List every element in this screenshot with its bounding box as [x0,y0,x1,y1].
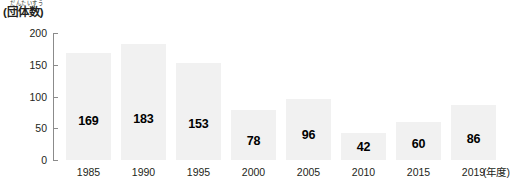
y-axis-tick-label: 50 [1,123,47,134]
x-axis-tick-label: 2000 [231,167,276,178]
y-axis-tick-label: 100 [1,92,47,103]
y-axis-tick [54,65,58,66]
bar: 183 [121,44,166,160]
y-axis-tick-label: 150 [1,60,47,71]
y-axis-tick [54,97,58,98]
y-axis-tick [54,160,58,161]
bar-value-label: 60 [396,138,441,151]
bar-value-label: 96 [286,129,331,142]
bar: 42 [341,133,386,160]
x-axis-label: (年度) [483,167,510,178]
x-axis-tick-label: 2010 [341,167,386,178]
y-axis-tick [54,128,58,129]
y-axis-label: (団体数) [3,7,73,19]
x-axis-tick-label: 1995 [176,167,221,178]
y-axis-tick-label: 0 [1,155,47,166]
bar: 169 [66,53,111,160]
bar-value-label: 169 [66,115,111,128]
bar: 86 [451,105,496,160]
x-axis-tick-label: 2005 [286,167,331,178]
bar: 96 [286,99,331,160]
bar: 60 [396,122,441,160]
y-axis-tick-labels: 050100150200 [1,33,47,161]
plot-area: 050100150200 1691831537896426086 [53,33,508,160]
bar-chart: だんたいすう (団体数) 050100150200 16918315378964… [0,0,525,194]
x-axis-tick-label: 1990 [121,167,166,178]
y-axis-caption: だんたいすう (団体数) [3,1,73,19]
bar-value-label: 153 [176,118,221,131]
bar-value-label: 42 [341,141,386,154]
x-axis-tick-label: 2015 [396,167,441,178]
bar-value-label: 78 [231,135,276,148]
bar: 78 [231,110,276,160]
y-axis-tick-label: 200 [1,28,47,39]
bar: 153 [176,63,221,160]
bar-value-label: 86 [451,133,496,146]
bar-value-label: 183 [121,113,166,126]
x-axis-tick-label: 1985 [66,167,111,178]
y-axis-tick [54,33,58,34]
